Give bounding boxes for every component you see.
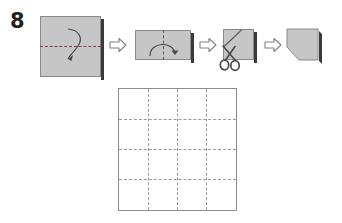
transition-arrow-3-icon <box>265 38 282 52</box>
transition-arrow-1-icon <box>110 38 127 52</box>
transition-arrow-2-icon <box>200 38 217 52</box>
scissors-icon <box>219 44 245 74</box>
step-2-fold-arrow-icon <box>148 32 182 60</box>
unfolded-grid-sheet <box>118 88 237 211</box>
step-4-pentagon-paper <box>286 28 324 64</box>
grid-crease-h-2 <box>119 149 236 150</box>
step-1-fold-arrow-icon <box>62 26 88 66</box>
shape-2-shadow <box>191 33 194 63</box>
step-number: 8 <box>10 11 25 32</box>
origami-diagram: 8 <box>0 0 342 223</box>
grid-crease-h-3 <box>119 179 236 180</box>
grid-crease-h-1 <box>119 119 236 120</box>
shape-1-shadow <box>101 19 104 80</box>
